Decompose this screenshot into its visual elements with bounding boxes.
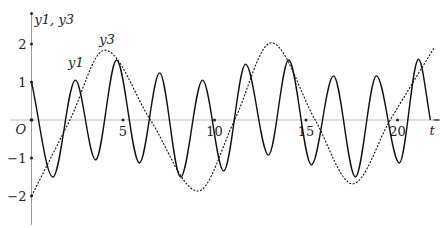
y-axis-label: y1, y3 — [34, 12, 75, 27]
y-tick-label: 2 — [18, 37, 26, 52]
origin-label: O — [16, 122, 27, 137]
chart: O t y1, y3 510152021−1−2 y1y3 — [0, 0, 447, 228]
x-tick-mark — [213, 119, 216, 122]
y-tick-label: −2 — [7, 189, 26, 204]
x-tick-label: 15 — [298, 124, 315, 139]
annotation-y1: y1 — [67, 55, 84, 70]
y-tick-mark — [30, 43, 33, 46]
y-tick-label: 1 — [18, 75, 26, 90]
ticks: 510152021−1−2 — [7, 12, 439, 204]
origin-dot — [30, 118, 34, 122]
series-y1-line — [32, 59, 431, 177]
x-tick-label: 5 — [119, 124, 127, 139]
curves — [32, 43, 435, 196]
axes: O t y1, y3 — [10, 12, 440, 225]
series-y3-line — [32, 43, 435, 196]
annotations: y1y3 — [67, 32, 115, 70]
y-axis-arrow — [30, 12, 33, 15]
x-axis-label: t — [430, 123, 436, 138]
y-tick-label: −1 — [7, 151, 26, 166]
x-tick-mark — [122, 119, 125, 122]
x-tick-mark — [305, 119, 308, 122]
x-tick-mark — [396, 119, 399, 122]
y-tick-mark — [30, 157, 33, 160]
annotation-y3: y3 — [98, 32, 115, 47]
